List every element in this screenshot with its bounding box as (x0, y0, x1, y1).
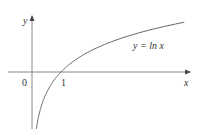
ln-curve (36, 22, 184, 129)
x-axis-label: x (183, 77, 189, 88)
y-axis-label: y (22, 15, 28, 26)
curve-annotation: y = ln x (132, 40, 164, 51)
x-tick-1-label: 1 (61, 77, 66, 88)
origin-label: 0 (22, 77, 27, 88)
ln-graph: y x 0 1 y = ln x (0, 0, 198, 135)
